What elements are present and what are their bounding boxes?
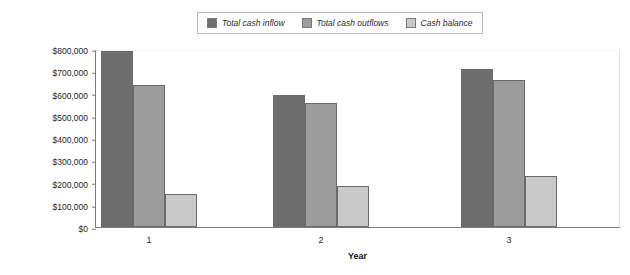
bar <box>165 194 197 227</box>
y-axis-tick-label: $400,000 <box>53 136 92 145</box>
legend-label: Total cash outflows <box>317 19 389 28</box>
y-axis-tick: $500,000 <box>53 114 96 123</box>
y-axis-tick-label: $500,000 <box>53 114 92 123</box>
y-axis-tick: $700,000 <box>53 69 96 78</box>
bar-chart: Total cash inflowTotal cash outflowsCash… <box>0 0 630 275</box>
legend-swatch-icon <box>302 18 312 28</box>
y-axis-tick: $100,000 <box>53 203 96 212</box>
y-axis-tick-label: $100,000 <box>53 203 92 212</box>
y-axis-tick: $400,000 <box>53 136 96 145</box>
y-axis-tick-label: $700,000 <box>53 69 92 78</box>
x-axis-tick-label: 1 <box>146 236 151 245</box>
y-axis-tick-mark <box>92 206 96 207</box>
y-axis-tick-mark <box>92 117 96 118</box>
y-axis-tick: $200,000 <box>53 180 96 189</box>
plot-area: $0$100,000$200,000$300,000$400,000$500,0… <box>95 50 620 228</box>
y-axis-tick-mark <box>92 73 96 74</box>
bar <box>273 95 305 227</box>
y-axis-tick-label: $300,000 <box>53 158 92 167</box>
y-axis-tick-mark <box>92 184 96 185</box>
y-axis-tick-label: $200,000 <box>53 180 92 189</box>
y-axis-tick-mark <box>92 95 96 96</box>
y-axis-tick: $300,000 <box>53 158 96 167</box>
bar <box>305 103 337 227</box>
y-axis-tick-mark <box>92 140 96 141</box>
y-axis-tick-label: $800,000 <box>53 47 92 56</box>
x-axis-title: Year <box>95 252 620 261</box>
legend-swatch-icon <box>406 18 416 28</box>
chart-legend: Total cash inflowTotal cash outflowsCash… <box>197 12 483 34</box>
bar <box>525 176 557 227</box>
legend-item[interactable]: Cash balance <box>406 18 473 28</box>
y-axis-tick-label: $0 <box>79 225 92 234</box>
y-axis-tick-mark <box>92 229 96 230</box>
legend-label: Total cash inflow <box>222 19 285 28</box>
bar <box>337 186 369 227</box>
bar <box>101 51 133 227</box>
y-axis-tick-mark <box>92 162 96 163</box>
y-axis-tick: $600,000 <box>53 91 96 100</box>
y-axis-tick-label: $600,000 <box>53 91 92 100</box>
legend-item[interactable]: Total cash outflows <box>302 18 389 28</box>
y-axis-tick: $800,000 <box>53 47 96 56</box>
legend-item[interactable]: Total cash inflow <box>207 18 285 28</box>
bar <box>493 80 525 227</box>
legend-label: Cash balance <box>421 19 473 28</box>
y-axis-tick-mark <box>92 51 96 52</box>
y-axis-tick: $0 <box>79 225 96 234</box>
x-axis-tick-label: 3 <box>506 236 511 245</box>
x-axis-tick-label: 2 <box>318 236 323 245</box>
bar <box>133 85 165 227</box>
legend-swatch-icon <box>207 18 217 28</box>
bar <box>461 69 493 227</box>
